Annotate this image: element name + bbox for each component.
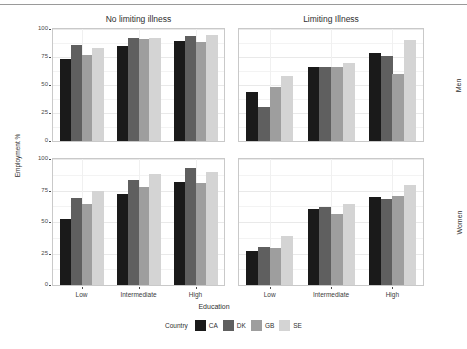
y-axis-tick-mark [49, 141, 51, 142]
bar [92, 48, 103, 141]
chart-panel [52, 158, 225, 286]
gridline-horizontal [53, 141, 224, 142]
chart-panel [238, 158, 424, 286]
bar [281, 76, 293, 141]
y-axis-label: Employment % [14, 111, 21, 201]
facet-col-title-limiting-illness: Limiting Illness [238, 14, 424, 24]
legend-label: CA [209, 322, 218, 329]
x-axis-tick-mark [196, 287, 197, 289]
bar [404, 185, 416, 285]
bar [308, 209, 320, 285]
y-axis-tick-mark [49, 222, 51, 223]
y-axis-tick-mark [49, 113, 51, 114]
bar [404, 40, 416, 141]
bar [149, 174, 160, 285]
y-axis-tick-label: 75 [22, 187, 48, 193]
x-axis-tick-label: Low [235, 291, 305, 298]
bar [281, 236, 293, 285]
bar [343, 63, 355, 141]
y-axis-tick-mark [49, 254, 51, 255]
bar [128, 38, 139, 141]
bar [369, 53, 381, 141]
y-axis-tick-label: 50 [22, 218, 48, 224]
legend-item[interactable]: SE [279, 320, 302, 331]
y-axis-tick-label: 0 [22, 281, 48, 287]
bar [258, 247, 270, 285]
y-axis-tick-mark [49, 29, 51, 30]
bar [117, 194, 128, 285]
bar [392, 196, 404, 285]
y-axis-tick-label: 100 [22, 155, 48, 161]
bar [185, 168, 196, 285]
legend-swatch-se [279, 320, 290, 331]
bar [381, 199, 393, 285]
y-axis-tick-label: 100 [22, 25, 48, 31]
x-axis-tick-mark [392, 287, 393, 289]
bar [71, 198, 82, 285]
chart-legend: Country CADKGBSE [0, 320, 467, 331]
top-divider [0, 4, 467, 5]
bar [60, 219, 71, 285]
bar [117, 46, 128, 141]
bar [319, 67, 331, 141]
bar [246, 92, 258, 141]
bar [82, 55, 93, 141]
bar [308, 67, 320, 141]
y-axis-tick-label: 25 [22, 250, 48, 256]
facet-row-strip-men: Men [452, 28, 465, 142]
x-axis-tick-label: High [357, 291, 427, 298]
y-axis-tick-label: 0 [22, 137, 48, 143]
bar [381, 56, 393, 141]
bar [139, 187, 150, 285]
bar [270, 87, 282, 141]
bar [139, 39, 150, 141]
x-axis-tick-mark [139, 287, 140, 289]
bar [174, 182, 185, 285]
y-axis-tick-mark [49, 191, 51, 192]
bar [319, 207, 331, 285]
legend-label: DK [237, 322, 246, 329]
bar [92, 191, 103, 286]
facet-row-strip-men-label: Men [455, 78, 462, 92]
facet-row-strip-women-label: Women [455, 210, 462, 234]
facet-row-strip-women: Women [452, 158, 465, 286]
bar [196, 183, 207, 285]
y-axis-tick-mark [49, 285, 51, 286]
x-axis-tick-mark [82, 287, 83, 289]
y-axis-tick-mark [49, 57, 51, 58]
bar [185, 36, 196, 141]
bar [246, 251, 258, 285]
chart-panel [238, 28, 424, 142]
y-axis-tick-mark [49, 159, 51, 160]
chart-figure: Employment % Education No limiting illne… [0, 0, 467, 349]
bar [369, 197, 381, 285]
legend-swatch-ca [195, 320, 206, 331]
legend-swatch-dk [223, 320, 234, 331]
legend-title: Country [165, 322, 188, 329]
legend-swatch-gb [251, 320, 262, 331]
x-axis-tick-label: Intermediate [296, 291, 366, 298]
chart-panel [52, 28, 225, 142]
legend-item[interactable]: DK [223, 320, 246, 331]
legend-item[interactable]: GB [251, 320, 274, 331]
bar [128, 180, 139, 285]
bar [331, 214, 343, 285]
gridline-horizontal [239, 141, 423, 142]
legend-label: SE [293, 322, 302, 329]
bar [392, 74, 404, 141]
bar [71, 45, 82, 141]
bar [196, 42, 207, 141]
x-axis-label: Education [0, 303, 428, 310]
bar [343, 204, 355, 285]
x-axis-tick-label: High [161, 291, 231, 298]
x-axis-tick-mark [270, 287, 271, 289]
legend-item[interactable]: CA [195, 320, 218, 331]
y-axis-tick-label: 75 [22, 53, 48, 59]
legend-label: GB [265, 322, 274, 329]
x-axis-tick-mark [331, 287, 332, 289]
gridline-horizontal [239, 285, 423, 286]
y-axis-tick-label: 25 [22, 109, 48, 115]
facet-col-title-no-limiting-illness: No limiting illness [52, 14, 225, 24]
y-axis-tick-label: 50 [22, 81, 48, 87]
bar [60, 59, 71, 141]
